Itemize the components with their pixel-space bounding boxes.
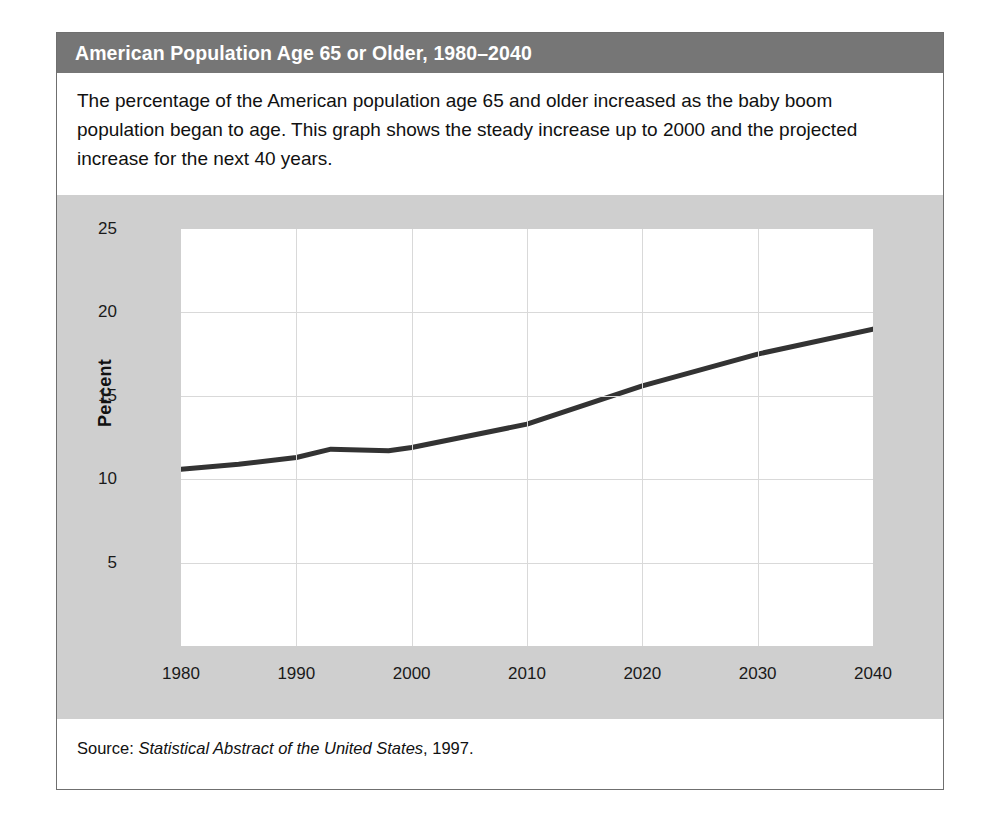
gridline-horizontal: [181, 396, 873, 397]
figure-title-bar: American Population Age 65 or Older, 198…: [57, 33, 943, 73]
gridline-horizontal: [181, 312, 873, 313]
figure-panel: American Population Age 65 or Older, 198…: [56, 32, 944, 790]
plot-area: [181, 229, 873, 646]
gridline-horizontal: [181, 479, 873, 480]
x-axis-tick-label: 2040: [833, 664, 913, 684]
x-axis-tick-label: 2020: [602, 664, 682, 684]
page-title: American Population Age 65 or Older, 198…: [75, 42, 532, 65]
y-axis-tick-label: 5: [57, 553, 117, 573]
source-citation: Source: Statistical Abstract of the Unit…: [77, 739, 474, 757]
gridline-vertical: [296, 229, 297, 646]
chart-panel: Percent 51015202519801990200020102020203…: [57, 195, 943, 719]
x-axis-tick-label: 1980: [141, 664, 221, 684]
y-axis-tick-label: 20: [57, 302, 117, 322]
gridline-vertical: [527, 229, 528, 646]
source-prefix: Source:: [77, 739, 138, 757]
y-axis-tick-label: 25: [57, 219, 117, 239]
source-suffix: , 1997.: [423, 739, 473, 757]
x-axis-tick-label: 2010: [487, 664, 567, 684]
x-axis-tick-label: 1990: [256, 664, 336, 684]
gridline-horizontal: [181, 563, 873, 564]
gridline-vertical: [412, 229, 413, 646]
y-axis-tick-label: 15: [57, 386, 117, 406]
caption-text: The percentage of the American populatio…: [77, 87, 917, 174]
source-title: Statistical Abstract of the United State…: [138, 739, 423, 757]
source-panel: Source: Statistical Abstract of the Unit…: [57, 719, 943, 789]
gridline-vertical: [758, 229, 759, 646]
gridline-vertical: [642, 229, 643, 646]
figure-caption: The percentage of the American populatio…: [57, 73, 943, 195]
x-axis-tick-label: 2000: [372, 664, 452, 684]
y-axis-tick-label: 10: [57, 469, 117, 489]
x-axis-tick-label: 2030: [718, 664, 798, 684]
